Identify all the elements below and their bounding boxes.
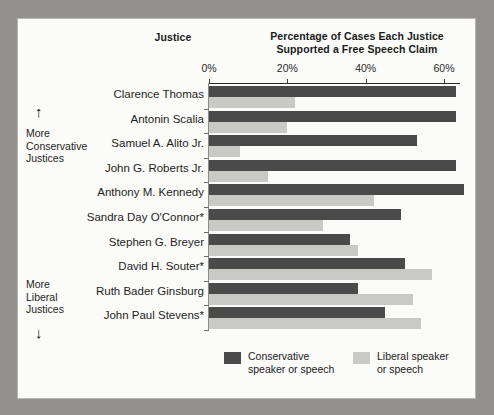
legend-swatch-conservative-icon xyxy=(224,352,241,364)
justice-label: Antonin Scalia xyxy=(14,113,204,125)
value-axis-tick-label: 0% xyxy=(201,62,216,74)
legend-label-conservative-line-2: speaker or speech xyxy=(248,363,334,376)
bar-liberal xyxy=(209,318,421,329)
justice-label: Stephen G. Breyer xyxy=(14,236,204,248)
bar-conservative xyxy=(209,111,456,122)
category-axis-tick xyxy=(204,305,209,306)
legend-label-conservative: Conservative speaker or speech xyxy=(248,350,334,376)
category-axis-tick xyxy=(204,232,209,233)
category-axis-labels: Clarence ThomasAntonin ScaliaSamuel A. A… xyxy=(18,83,204,333)
bar-liberal xyxy=(209,122,287,133)
chart-figure: Justice Percentage of Cases Each Justice… xyxy=(18,19,475,398)
justice-label: Samuel A. Alito Jr. xyxy=(14,137,204,149)
justice-label: Anthony M. Kennedy xyxy=(14,186,204,198)
value-axis-line xyxy=(208,83,460,84)
value-axis-tick xyxy=(366,79,367,84)
legend-label-liberal-line-2: or speech xyxy=(377,363,449,376)
bar-conservative xyxy=(209,160,456,171)
bar-liberal xyxy=(209,220,323,231)
bar-conservative xyxy=(209,184,464,195)
chart-title: Percentage of Cases Each Justice Support… xyxy=(240,30,474,56)
bar-conservative xyxy=(209,135,417,146)
legend-label-liberal: Liberal speaker or speech xyxy=(377,350,449,376)
value-axis-tick xyxy=(209,79,210,84)
justice-label: Clarence Thomas xyxy=(14,88,204,100)
legend-label-conservative-line-1: Conservative xyxy=(248,350,309,362)
value-axis-tick xyxy=(444,79,445,84)
justice-column-header: Justice xyxy=(118,31,228,44)
bar-liberal xyxy=(209,245,358,256)
justice-label: John G. Roberts Jr. xyxy=(14,162,204,174)
bar-liberal xyxy=(209,97,295,108)
chart-title-line-1: Percentage of Cases Each Justice xyxy=(240,30,474,43)
category-axis-tick xyxy=(204,182,209,183)
category-axis-tick xyxy=(204,281,209,282)
bar-liberal xyxy=(209,294,413,305)
legend-label-liberal-line-1: Liberal speaker xyxy=(377,350,449,362)
value-axis-tick-label: 40% xyxy=(355,62,376,74)
bar-liberal xyxy=(209,171,268,182)
category-axis-tick xyxy=(204,133,209,134)
bar-conservative xyxy=(209,258,405,269)
justice-label: David H. Souter* xyxy=(14,260,204,272)
plot-area: 0%20%40%60% xyxy=(208,83,458,333)
bar-conservative xyxy=(209,234,350,245)
value-axis-tick-label: 60% xyxy=(433,62,454,74)
bar-liberal xyxy=(209,146,240,157)
justice-label: Sandra Day O'Connor* xyxy=(14,211,204,223)
bar-liberal xyxy=(209,269,432,280)
category-axis-tick xyxy=(204,109,209,110)
bar-conservative xyxy=(209,283,358,294)
value-axis-tick xyxy=(287,79,288,84)
bar-conservative xyxy=(209,86,456,97)
legend-swatch-liberal-icon xyxy=(353,352,370,364)
category-axis-tick xyxy=(204,256,209,257)
bar-conservative xyxy=(209,209,401,220)
value-axis-tick-label: 20% xyxy=(277,62,298,74)
chart-legend: Conservative speaker or speech Liberal s… xyxy=(224,350,474,390)
category-axis-tick xyxy=(204,158,209,159)
justice-label: Ruth Bader Ginsburg xyxy=(14,285,204,297)
bar-conservative xyxy=(209,307,385,318)
justice-label: John Paul Stevens* xyxy=(14,309,204,321)
screenshot-canvas: Justice Percentage of Cases Each Justice… xyxy=(0,0,494,415)
bar-liberal xyxy=(209,195,374,206)
category-axis-tick xyxy=(204,207,209,208)
chart-title-line-2: Supported a Free Speech Claim xyxy=(240,43,474,56)
category-axis-tick xyxy=(204,330,209,331)
